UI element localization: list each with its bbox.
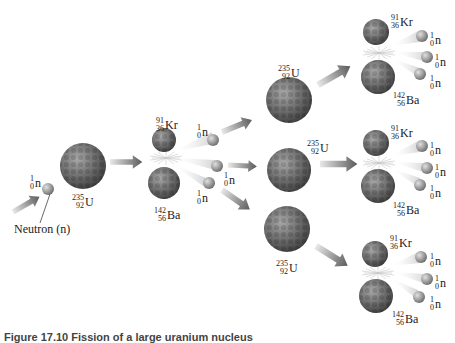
label-uranium-bottom: 23592U bbox=[276, 256, 298, 276]
label-barium: 14256Ba bbox=[392, 307, 418, 327]
arrow-to-fission-1 bbox=[110, 155, 142, 168]
incoming-neutron-arrow bbox=[10, 191, 43, 217]
label-neutron: 10n bbox=[430, 181, 441, 201]
label-neutron: 10n bbox=[435, 160, 446, 180]
arrow-to-fission-middle bbox=[320, 156, 357, 171]
released-neutron bbox=[207, 134, 219, 146]
fission-group-top bbox=[361, 19, 433, 94]
label-krypton: 9136Kr bbox=[390, 231, 412, 251]
label-krypton: 9136Kr bbox=[391, 10, 413, 30]
figure-caption: Figure 17.10 Fission of a large uranium … bbox=[4, 331, 253, 343]
label-neutron: 10n bbox=[430, 249, 441, 269]
label-uranium-middle: 23592U bbox=[307, 136, 329, 156]
label-neutron: 10n bbox=[224, 168, 235, 188]
released-neutron bbox=[211, 160, 223, 172]
label-neutron: 10n bbox=[430, 292, 441, 312]
arrow-to-uranium-top bbox=[220, 114, 255, 138]
incoming-neutron bbox=[42, 183, 54, 195]
label-barium: 14256Ba bbox=[393, 88, 419, 108]
uranium-nucleus-top bbox=[266, 77, 312, 123]
label-neutron: 10n bbox=[430, 138, 441, 158]
label-uranium-top: 23592U bbox=[278, 61, 300, 81]
label-neutron: 10n bbox=[197, 186, 208, 206]
label-neutron: 10n bbox=[435, 50, 446, 70]
uranium-nucleus-initial bbox=[60, 143, 106, 189]
label-krypton: 9136Kr bbox=[391, 121, 413, 141]
label-neutron-caption: Neutron (n) bbox=[14, 223, 70, 235]
label-barium: 14256Ba bbox=[393, 198, 419, 218]
arrow-to-uranium-bottom bbox=[218, 184, 254, 215]
arrow-to-fission-top bbox=[314, 60, 354, 92]
label-neutron: 10n bbox=[435, 271, 446, 291]
label-neutron: 10n bbox=[197, 120, 208, 140]
barium-nucleus bbox=[148, 167, 180, 199]
label-neutron: 10n bbox=[430, 28, 441, 48]
arrow-to-fission-bottom bbox=[312, 239, 352, 272]
label-neutron: 10n bbox=[430, 71, 441, 91]
label-neutron-incoming: 10n bbox=[30, 171, 41, 191]
label-uranium-initial: 23592U bbox=[72, 190, 94, 210]
uranium-nucleus-middle bbox=[267, 148, 311, 192]
label-krypton: 9136Kr bbox=[156, 113, 178, 133]
uranium-nucleus-bottom bbox=[264, 206, 310, 252]
label-barium: 14256Ba bbox=[154, 203, 180, 223]
neutron-pointer-line bbox=[40, 194, 50, 223]
fission-group-bottom bbox=[359, 241, 433, 313]
